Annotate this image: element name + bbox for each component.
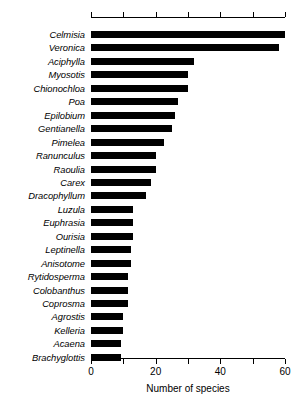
bar-row: Anisotome — [0, 257, 306, 270]
bar-row: Kelleria — [0, 324, 306, 337]
bar — [91, 31, 285, 38]
x-tick-label: 60 — [265, 366, 305, 377]
top-axis-tick — [123, 12, 124, 17]
bar-category-label: Agrostis — [0, 310, 85, 323]
bar-category-label: Raoulia — [0, 163, 85, 176]
bar-category-label: Carex — [0, 176, 85, 189]
bar-row: Colobanthus — [0, 284, 306, 297]
top-axis-tick — [188, 12, 189, 17]
bar — [91, 139, 164, 146]
bar-category-label: Aciphylla — [0, 55, 85, 68]
bar — [91, 313, 123, 320]
bar-row: Gentianella — [0, 122, 306, 135]
x-tick-label: 0 — [71, 366, 111, 377]
bar — [91, 112, 175, 119]
bar-category-label: Dracophyllum — [0, 189, 85, 202]
bar — [91, 58, 194, 65]
bar-category-label: Gentianella — [0, 122, 85, 135]
bar-category-label: Myosotis — [0, 68, 85, 81]
bar — [91, 246, 131, 253]
bar — [91, 219, 133, 226]
bar-row: Ranunculus — [0, 149, 306, 162]
bar-category-label: Coprosma — [0, 297, 85, 310]
plot-area: 0204060 CelmisiaVeronicaAciphyllaMyosoti… — [0, 0, 306, 405]
bar-row: Euphrasia — [0, 216, 306, 229]
bar — [91, 273, 128, 280]
bar-row: Acaena — [0, 337, 306, 350]
bar-row: Dracophyllum — [0, 189, 306, 202]
species-bar-chart: 0204060 CelmisiaVeronicaAciphyllaMyosoti… — [0, 0, 306, 405]
bar-row: Agrostis — [0, 310, 306, 323]
bar-category-label: Epilobium — [0, 109, 85, 122]
bar-row: Chionochloa — [0, 82, 306, 95]
bar — [91, 287, 128, 294]
top-axis-line — [91, 17, 285, 18]
bar-row: Pimelea — [0, 136, 306, 149]
bar — [91, 354, 121, 361]
top-axis-tick — [220, 12, 221, 17]
bar-row: Coprosma — [0, 297, 306, 310]
bar-category-label: Ourisia — [0, 230, 85, 243]
bar-row: Raoulia — [0, 163, 306, 176]
bar-row: Rytidosperma — [0, 270, 306, 283]
bar — [91, 179, 151, 186]
bar-row: Poa — [0, 95, 306, 108]
bar-row: Aciphylla — [0, 55, 306, 68]
bar-row: Veronica — [0, 41, 306, 54]
bar-row: Brachyglottis — [0, 351, 306, 364]
bar-row: Epilobium — [0, 109, 306, 122]
bar — [91, 233, 133, 240]
bar — [91, 300, 128, 307]
bar-category-label: Anisotome — [0, 257, 85, 270]
bar-category-label: Poa — [0, 95, 85, 108]
bar-category-label: Rytidosperma — [0, 270, 85, 283]
bar — [91, 166, 156, 173]
x-tick-label: 40 — [200, 366, 240, 377]
top-axis-tick — [91, 12, 92, 17]
bar — [91, 340, 121, 347]
bar-category-label: Leptinella — [0, 243, 85, 256]
bar-category-label: Brachyglottis — [0, 351, 85, 364]
bar-category-label: Chionochloa — [0, 82, 85, 95]
bar — [91, 85, 188, 92]
top-axis-tick — [285, 12, 286, 17]
bar-row: Myosotis — [0, 68, 306, 81]
bar-category-label: Veronica — [0, 41, 85, 54]
bar-row: Carex — [0, 176, 306, 189]
bar — [91, 260, 131, 267]
top-axis-tick — [253, 12, 254, 17]
bar — [91, 206, 133, 213]
bar-row: Luzula — [0, 203, 306, 216]
x-tick-label: 20 — [136, 366, 176, 377]
bar — [91, 192, 146, 199]
top-axis-tick — [156, 12, 157, 17]
bar-category-label: Pimelea — [0, 136, 85, 149]
bar-category-label: Celmisia — [0, 28, 85, 41]
bar — [91, 98, 178, 105]
bar-category-label: Euphrasia — [0, 216, 85, 229]
x-axis-title: Number of species — [91, 383, 285, 395]
bar-row: Ourisia — [0, 230, 306, 243]
bar — [91, 152, 156, 159]
bar-row: Leptinella — [0, 243, 306, 256]
bar — [91, 327, 123, 334]
bar-category-label: Ranunculus — [0, 149, 85, 162]
bar-row: Celmisia — [0, 28, 306, 41]
bar-category-label: Luzula — [0, 203, 85, 216]
bar — [91, 125, 172, 132]
bar-category-label: Colobanthus — [0, 284, 85, 297]
bar-category-label: Kelleria — [0, 324, 85, 337]
bar-category-label: Acaena — [0, 337, 85, 350]
bar — [91, 44, 279, 51]
bar — [91, 71, 188, 78]
